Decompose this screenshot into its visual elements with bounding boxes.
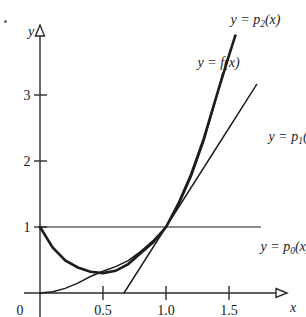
curve-label-p1: y = p1(x) [237, 129, 306, 146]
curve-label-p0: y = p0(x) [229, 239, 306, 256]
taylor-approximation-chart: 0 0.5 1.0 1.5 1 2 3 y x y = p2(x) y = f(… [0, 0, 306, 317]
svg-text:y = p2(x): y = p2(x) [199, 12, 305, 29]
curve-label-p2: y = p2(x) [199, 12, 305, 29]
x-tick-label-1.5: 1.5 [220, 303, 238, 317]
y-axis-label: y [26, 24, 35, 39]
x-tick-label-0.5: 0.5 [94, 303, 112, 317]
label-p2-main: y = p [229, 12, 261, 27]
y-tick-label-1: 1 [24, 220, 31, 235]
curve-p1-linear [124, 84, 257, 293]
x-axis-arrowhead [276, 289, 287, 298]
y-axis-arrowhead [36, 25, 45, 36]
tick-label-group: 0 0.5 1.0 1.5 1 2 3 [17, 88, 238, 317]
label-f-main: y = f(x) [196, 55, 240, 71]
curve-f-function [40, 36, 235, 274]
label-p0-tail: (x) [295, 239, 306, 255]
x-axis-label: x [289, 300, 297, 315]
svg-text:y = f(x): y = f(x) [166, 55, 264, 71]
label-p0-main: y = p [259, 239, 291, 254]
curve-label-f: y = f(x) [166, 55, 264, 71]
label-p1-main: y = p [267, 129, 299, 144]
svg-text:y = p0(x): y = p0(x) [229, 239, 306, 256]
svg-text:y = p1(x): y = p1(x) [237, 129, 306, 146]
x-tick-label-0: 0 [17, 303, 24, 317]
y-tick-label-3: 3 [24, 88, 31, 103]
x-tick-label-1.0: 1.0 [157, 303, 175, 317]
label-p2-tail: (x) [265, 12, 281, 28]
label-p1-tail: (x) [303, 129, 306, 145]
y-tick-label-2: 2 [24, 154, 31, 169]
